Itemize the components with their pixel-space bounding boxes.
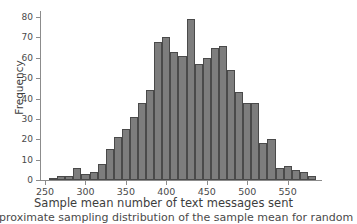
histogram-bar xyxy=(235,92,243,180)
histogram-bar xyxy=(195,64,203,180)
histogram-bar xyxy=(276,168,284,180)
y-axis-tick xyxy=(36,17,40,18)
y-axis-tick-label: 50 xyxy=(9,74,33,83)
histogram-bar xyxy=(251,103,259,180)
x-axis-tick xyxy=(288,181,289,185)
x-axis-tick xyxy=(207,181,208,185)
histogram-bar xyxy=(219,46,227,180)
histogram-bar xyxy=(308,176,316,180)
histogram-bar xyxy=(146,90,154,180)
y-axis-tick-label: 70 xyxy=(9,33,33,42)
histogram-bar xyxy=(292,170,300,180)
x-axis-tick xyxy=(126,181,127,185)
x-axis-tick xyxy=(247,181,248,185)
x-axis-tick xyxy=(85,181,86,185)
x-axis-line xyxy=(40,180,322,181)
y-axis-tick xyxy=(36,119,40,120)
histogram-bar xyxy=(90,172,98,180)
histogram-bar xyxy=(122,129,130,180)
y-axis-tick-label: 30 xyxy=(9,115,33,124)
histogram-bar xyxy=(57,176,65,180)
histogram-bar xyxy=(81,174,89,180)
y-axis-tick xyxy=(36,180,40,181)
figure-caption: pproximate sampling distribution of the … xyxy=(0,212,357,224)
histogram-bar xyxy=(170,52,178,180)
y-axis-tick xyxy=(36,160,40,161)
y-axis-tick-label: 0 xyxy=(9,176,33,185)
histogram-bar xyxy=(259,143,267,180)
histogram-bar xyxy=(154,42,162,180)
histogram-bar xyxy=(211,48,219,180)
y-axis-tick xyxy=(36,78,40,79)
y-axis-tick-label: 80 xyxy=(9,13,33,22)
histogram-bar xyxy=(227,70,235,180)
histogram-bar xyxy=(130,117,138,180)
y-axis-tick-label: 10 xyxy=(9,156,33,165)
x-axis-tick xyxy=(45,181,46,185)
histogram-bar xyxy=(114,137,122,180)
y-axis-tick-label: 20 xyxy=(9,135,33,144)
histogram-bar xyxy=(65,176,73,180)
histogram-bar xyxy=(49,178,57,180)
histogram-bar xyxy=(187,19,195,180)
y-axis-tick-label: 40 xyxy=(9,95,33,104)
y-axis-tick xyxy=(36,99,40,100)
plot-area xyxy=(41,13,320,180)
histogram-bar xyxy=(138,103,146,180)
histogram-bars xyxy=(41,13,320,180)
histogram-bar xyxy=(267,139,275,180)
y-axis-title: Frequency xyxy=(14,33,25,143)
histogram-bar xyxy=(73,168,81,180)
histogram-bar xyxy=(284,166,292,180)
histogram-bar xyxy=(162,37,170,180)
y-axis-tick xyxy=(36,37,40,38)
histogram-bar xyxy=(178,56,186,180)
y-axis-tick xyxy=(36,139,40,140)
histogram-bar xyxy=(243,103,251,180)
x-axis-tick xyxy=(166,181,167,185)
histogram-bar xyxy=(203,58,211,180)
histogram-bar xyxy=(98,164,106,180)
x-axis-title: Sample mean number of text messages sent xyxy=(0,197,327,209)
histogram-bar xyxy=(106,149,114,180)
histogram-bar xyxy=(300,172,308,180)
y-axis-tick-label: 60 xyxy=(9,54,33,63)
y-axis-tick xyxy=(36,58,40,59)
